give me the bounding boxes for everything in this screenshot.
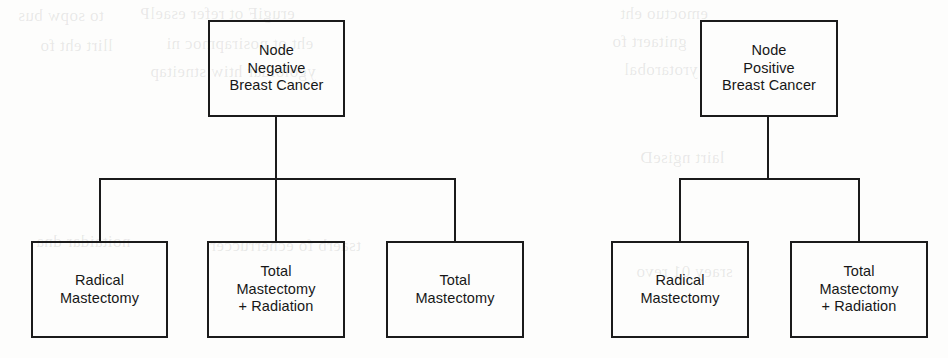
- arm-total-mastectomy-radiation: Total Mastectomy + Radiation: [790, 241, 928, 338]
- connector-trunk: [767, 117, 769, 180]
- arm-total-mastectomy-radiation-label: Total Mastectomy + Radiation: [232, 263, 319, 316]
- arm-total-mastectomy: Total Mastectomy: [386, 241, 524, 338]
- arm-radical-mastectomy: Radical Mastectomy: [611, 241, 749, 338]
- connector-stub: [858, 178, 860, 241]
- flow-diagram-figure: to sopw buserugiF ot refer esaelPemoctuo…: [0, 0, 948, 358]
- root-node-positive-label: Node Positive Breast Cancer: [718, 42, 820, 95]
- arm-total-mastectomy-radiation-label: Total Mastectomy + Radiation: [815, 263, 902, 316]
- connector-stub: [454, 178, 456, 241]
- bleedthrough-text: gnitaert fo: [612, 32, 687, 52]
- bleedthrough-text: llirt eht fo: [40, 36, 113, 56]
- connector-stub: [275, 178, 277, 241]
- bleedthrough-text: emoctuo eht: [620, 4, 708, 24]
- bleedthrough-text: to sopw bus: [18, 6, 104, 26]
- root-node-positive: Node Positive Breast Cancer: [700, 20, 838, 117]
- connector-horizontal-bar: [680, 178, 859, 180]
- arm-radical-mastectomy-label: Radical Mastectomy: [56, 272, 143, 307]
- root-node-negative-label: Node Negative Breast Cancer: [226, 42, 328, 95]
- connector-stub: [99, 178, 101, 241]
- bleedthrough-text: yrotarobal: [624, 60, 698, 80]
- arm-total-mastectomy-radiation: Total Mastectomy + Radiation: [207, 241, 345, 338]
- arm-total-mastectomy-label: Total Mastectomy: [411, 272, 498, 307]
- connector-stub: [679, 178, 681, 241]
- root-node-negative: Node Negative Breast Cancer: [208, 20, 345, 117]
- bleedthrough-text: lairt ngiseD: [640, 148, 725, 168]
- arm-radical-mastectomy: Radical Mastectomy: [31, 241, 168, 338]
- arm-radical-mastectomy-label: Radical Mastectomy: [636, 272, 723, 307]
- connector-horizontal-bar: [100, 178, 455, 180]
- connector-trunk: [275, 117, 277, 180]
